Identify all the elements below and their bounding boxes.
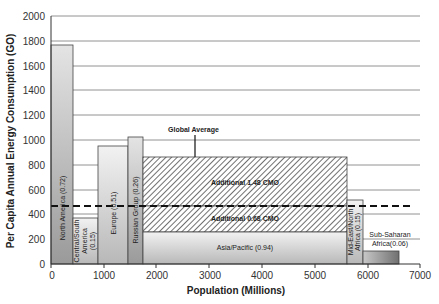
svg-text:5000: 5000 [304,270,327,281]
svg-text:1400: 1400 [23,85,46,96]
label-central-south-1: Central/South [73,219,80,262]
global-average-label: Global Average [168,126,219,134]
label-sub-saharan-1: Sub-Saharan [369,231,410,238]
label-north-america: North America (0.72) [59,176,67,241]
svg-text:800: 800 [28,160,45,171]
y-ticks: 0 200 400 600 800 1000 1200 1400 1600 18… [23,11,46,270]
x-axis-label: Population (Millions) [187,285,285,296]
svg-text:1200: 1200 [23,110,46,121]
label-europe: Europe (0.51) [110,192,118,235]
label-central-south-2: America [81,228,88,254]
label-mideast-2: Africa (0.15) [354,213,362,251]
svg-text:0: 0 [49,270,55,281]
label-russian-group: Russian Group (0.26) [132,177,140,244]
svg-text:1000: 1000 [93,270,116,281]
svg-text:200: 200 [28,234,45,245]
svg-text:1800: 1800 [23,36,46,47]
svg-text:2000: 2000 [23,11,46,22]
bar-sub-saharan-africa [363,251,399,264]
label-sub-saharan-2: Africa(0.06) [372,240,408,248]
svg-text:1000: 1000 [23,135,46,146]
svg-text:3000: 3000 [199,270,222,281]
svg-text:6000: 6000 [357,270,380,281]
svg-text:7000: 7000 [409,270,432,281]
label-additional-1-48: Additional 1.48 CMO [211,179,280,186]
label-central-south-3: (0.15) [89,232,97,250]
svg-text:0: 0 [39,259,45,270]
label-asia-pacific: Asia/Pacific (0.94) [217,244,273,252]
svg-text:1600: 1600 [23,61,46,72]
label-additional-0-68: Additional 0.68 CMO [211,215,280,222]
x-ticks: 0 1000 2000 3000 4000 5000 6000 7000 [49,264,431,281]
svg-text:400: 400 [28,209,45,220]
y-axis-label: Per Capita Annual Energy Consumption (GO… [5,34,16,249]
energy-chart: Global Average 0 200 400 600 800 1000 12… [0,0,439,304]
svg-text:4000: 4000 [251,270,274,281]
svg-text:2000: 2000 [146,270,169,281]
label-mideast-1: Mid-East/North [347,209,354,256]
svg-text:600: 600 [28,185,45,196]
